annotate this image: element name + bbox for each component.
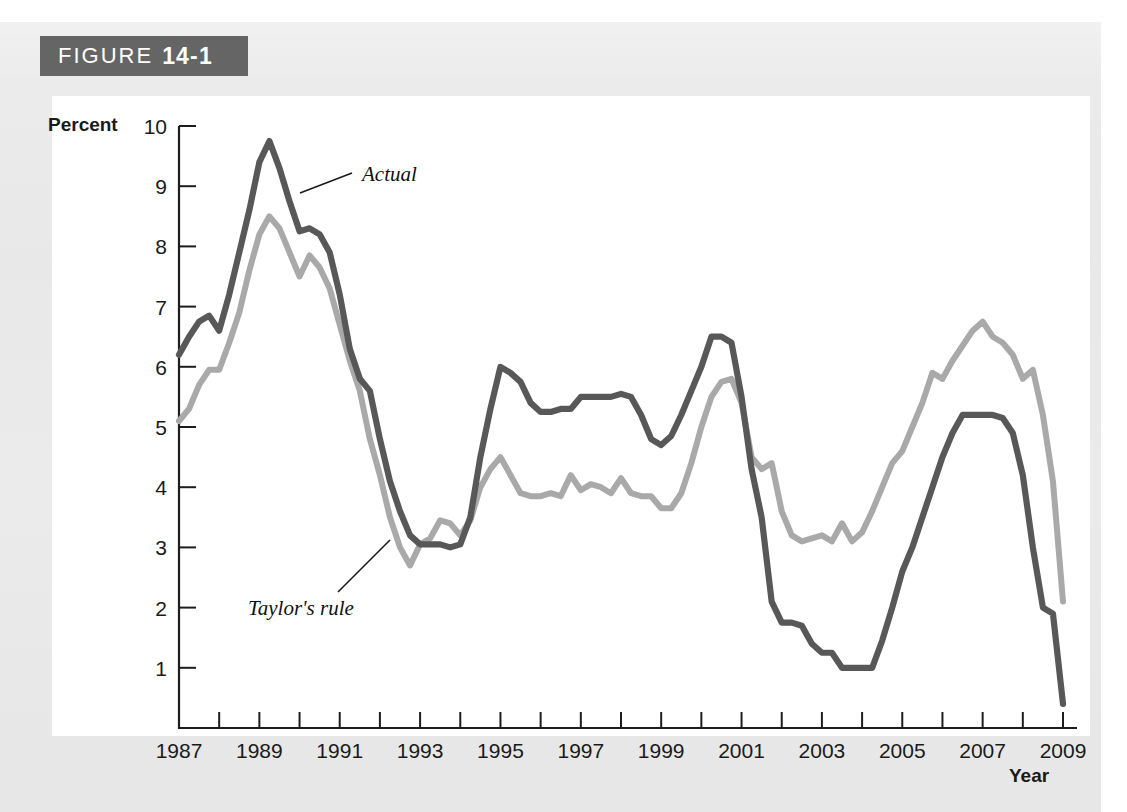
taylor-rule-annotation-label: Taylor's rule xyxy=(248,596,354,620)
y-tick-label: 7 xyxy=(155,296,167,319)
tick-labels-group: 1234567891019871989199119931995199719992… xyxy=(144,115,1087,762)
y-tick-label: 1 xyxy=(155,657,167,680)
y-tick-label: 9 xyxy=(155,175,167,198)
figure-page: FIGURE 14-1 Percent Year 123456789101987… xyxy=(0,0,1127,812)
figure-label: FIGURE xyxy=(40,43,153,69)
x-tick-label: 1995 xyxy=(477,739,524,762)
x-tick-label: 1993 xyxy=(397,739,444,762)
y-tick-label: 4 xyxy=(155,476,167,499)
x-tick-label: 1989 xyxy=(236,739,283,762)
x-tick-label: 1997 xyxy=(557,739,604,762)
x-tick-label: 2005 xyxy=(879,739,926,762)
y-axis-title: Percent xyxy=(48,114,118,136)
actual-leader-line xyxy=(300,173,352,193)
axes-group xyxy=(179,126,1077,728)
taylor-rule-leader-line xyxy=(338,540,390,592)
y-tick-label: 6 xyxy=(155,356,167,379)
series-line-taylor-s-rule xyxy=(179,216,1063,601)
y-tick-label: 2 xyxy=(155,597,167,620)
x-axis-title: Year xyxy=(1009,765,1049,787)
figure-number: 14-1 xyxy=(153,43,213,70)
y-tick-label: 10 xyxy=(144,115,167,138)
axis-lines xyxy=(179,126,1077,728)
chart-svg: 1234567891019871989199119931995199719992… xyxy=(0,0,1127,812)
x-tick-label: 1999 xyxy=(638,739,685,762)
x-tick-label: 2003 xyxy=(799,739,846,762)
y-tick-label: 8 xyxy=(155,235,167,258)
y-tick-label: 5 xyxy=(155,416,167,439)
x-tick-label: 1991 xyxy=(316,739,363,762)
figure-banner: FIGURE 14-1 xyxy=(40,36,248,76)
x-tick-label: 1987 xyxy=(156,739,203,762)
x-tick-label: 2007 xyxy=(959,739,1006,762)
x-tick-label: 2009 xyxy=(1040,739,1087,762)
tick-marks-group xyxy=(179,126,1063,728)
x-tick-label: 2001 xyxy=(718,739,765,762)
annotations-group: ActualTaylor's rule xyxy=(248,162,417,620)
y-tick-label: 3 xyxy=(155,536,167,559)
actual-annotation-label: Actual xyxy=(360,162,417,186)
